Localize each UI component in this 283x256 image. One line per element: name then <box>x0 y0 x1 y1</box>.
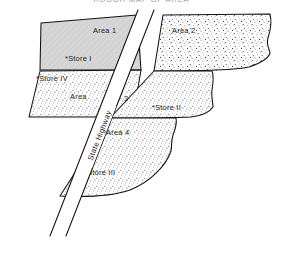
map-canvas: Area 1 *Store I Area 2 Area *Store IV 3 <box>0 0 283 256</box>
area-3-left-label: Area <box>70 92 87 101</box>
area-2-region[interactable]: Area 2 <box>154 14 271 71</box>
store-4-label: *Store IV <box>36 74 68 83</box>
store-2-label: *Store II <box>152 103 181 112</box>
area-2-label: Area 2 <box>172 26 195 35</box>
store-1-label: *Store I <box>65 54 92 63</box>
area-4-label: Area 4 <box>106 128 129 137</box>
area-3-right-label: 3 <box>124 94 128 103</box>
area-1-label: Area 1 <box>93 26 116 35</box>
rough-map-figure: ROUGH MAP OF AREA <box>0 0 283 256</box>
